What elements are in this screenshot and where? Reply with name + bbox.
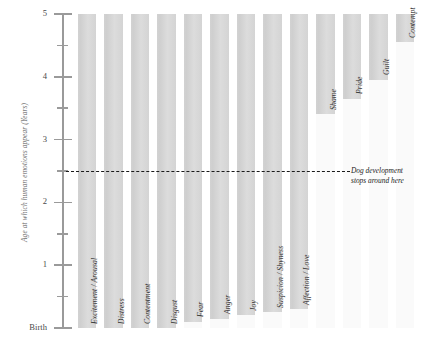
y-tick-label: 4: [43, 71, 47, 81]
y-tick-major: [54, 264, 72, 266]
y-tick-minor: [57, 233, 68, 235]
threshold-note-line-1: Dog development: [351, 166, 404, 176]
bar-label: Contempt: [408, 7, 417, 38]
bar[interactable]: [210, 14, 229, 319]
y-tick-minor: [57, 107, 68, 109]
bar-label: Suspicion / Shyness: [276, 245, 285, 307]
y-axis-label: Age at which human emotions appear (Year…: [20, 53, 29, 293]
y-tick-minor: [57, 296, 68, 298]
bar-label: Contentment: [143, 283, 152, 323]
y-tick-major: [54, 76, 72, 78]
bar-label: Joy: [249, 300, 258, 311]
y-tick-major: [54, 202, 72, 204]
bar-label: Excitement / Arousal: [90, 257, 99, 323]
y-tick-label: 2: [43, 196, 47, 206]
y-tick-major: [54, 139, 72, 141]
dog-development-threshold-note: Dog development stops around here: [351, 166, 404, 186]
bar[interactable]: [237, 14, 256, 315]
threshold-note-line-2: stops around here: [351, 176, 404, 186]
y-tick-label: Birth: [29, 322, 47, 332]
bar-label: Pride: [355, 77, 364, 95]
bar[interactable]: [184, 14, 203, 322]
emotion-development-chart: Age at which human emotions appear (Year…: [0, 0, 421, 350]
bar-label: Anger: [223, 295, 232, 314]
y-tick-label: 1: [43, 259, 47, 269]
bar-label: Shame: [329, 89, 338, 110]
y-tick-label: 5: [43, 8, 47, 18]
y-tick-minor: [57, 45, 68, 47]
y-tick-major: [54, 13, 72, 15]
bar-label: Affection / Love: [302, 254, 311, 304]
bar-label: Fear: [196, 302, 205, 317]
bar-label: Guilt: [382, 59, 391, 75]
dog-development-threshold-line: [66, 171, 350, 172]
y-tick-major: [54, 327, 72, 329]
bar-label: Distress: [117, 298, 126, 324]
bar-label: Disgust: [170, 299, 179, 323]
y-tick-label: 3: [43, 134, 47, 144]
